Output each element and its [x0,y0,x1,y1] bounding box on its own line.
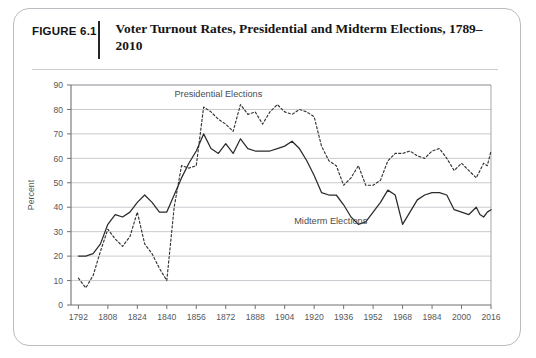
x-axis-tick-label: 1936 [334,312,353,322]
x-axis-tick-label: 1888 [246,312,265,322]
x-axis-tick-label: 2016 [481,312,500,322]
x-axis-tick-label: 2000 [452,312,471,322]
y-axis-tick-label: 20 [53,251,63,261]
x-axis-tick-label: 1840 [157,312,176,322]
figure-card: FIGURE 6.1 Voter Turnout Rates, Presiden… [13,8,521,346]
chart-plot: 0102030405060708090179218081824184018561… [14,71,522,343]
x-axis-tick-label: 1952 [364,312,383,322]
x-axis-tick-label: 1984 [422,312,441,322]
y-axis-tick-label: 70 [53,129,63,139]
header-rule-divider [32,69,498,70]
page-title: Voter Turnout Rates, Presidential and Mi… [116,21,488,54]
x-axis-tick-label: 1808 [98,312,117,322]
x-axis-tick-label: 1872 [216,312,235,322]
x-axis-tick-label: 1904 [275,312,294,322]
figure-number: FIGURE 6.1 [32,21,98,37]
series-line-presidential-elections [78,105,491,288]
y-axis-tick-label: 30 [53,227,63,237]
y-axis-tick-label: 80 [53,105,63,115]
x-axis-tick-label: 1824 [128,312,147,322]
y-axis-tick-label: 50 [53,178,63,188]
y-axis-tick-label: 60 [53,154,63,164]
line-chart-svg: 0102030405060708090179218081824184018561… [14,71,522,343]
x-axis-tick-label: 1856 [187,312,206,322]
y-axis-tick-label: 90 [53,80,63,90]
series-line-midterm-elections [78,134,491,256]
header-divider [98,21,100,59]
y-axis-tick-label: 0 [58,300,63,310]
x-axis-tick-label: 1968 [393,312,412,322]
y-axis-tick-label: 10 [53,276,63,286]
x-axis-tick-label: 1792 [69,312,88,322]
y-axis-title: Percent [26,179,36,210]
figure-header: FIGURE 6.1 Voter Turnout Rates, Presiden… [32,21,498,67]
series-label-midterm-elections: Midterm Elections [294,216,367,226]
series-label-presidential-elections: Presidential Elections [174,89,262,99]
y-axis-tick-label: 40 [53,202,63,212]
x-axis-tick-label: 1920 [305,312,324,322]
